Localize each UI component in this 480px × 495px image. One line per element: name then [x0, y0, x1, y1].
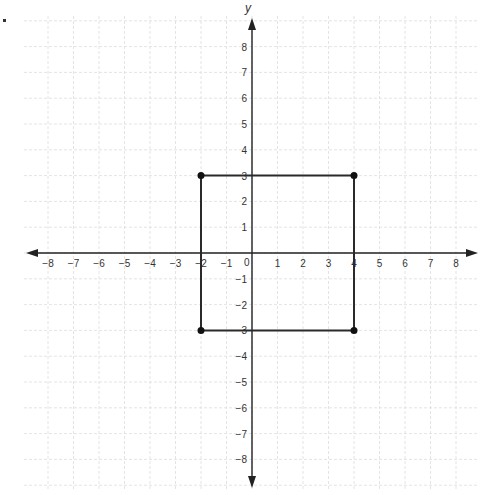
- x-tick-label: 1: [275, 258, 281, 269]
- y-tick-label: 6: [241, 93, 247, 104]
- vertex-point: [351, 327, 358, 334]
- y-tick-label: 5: [241, 119, 247, 130]
- y-tick-label: −6: [236, 403, 248, 414]
- y-tick-label: −1: [236, 274, 248, 285]
- y-tick-label: −2: [236, 300, 248, 311]
- y-tick-label: 1: [241, 222, 247, 233]
- y-tick-label: 8: [241, 42, 247, 53]
- x-tick-label: 7: [428, 258, 434, 269]
- x-axis-left-arrow-icon: [26, 249, 38, 257]
- x-tick-label: −3: [170, 258, 182, 269]
- y-axis-label: y: [244, 1, 252, 15]
- y-tick-label: 4: [241, 145, 247, 156]
- vertex-point: [198, 327, 205, 334]
- vertex-point: [198, 172, 205, 179]
- y-tick-label: 2: [241, 196, 247, 207]
- x-axis-right-arrow-icon: [466, 249, 478, 257]
- y-tick-label: 7: [241, 67, 247, 78]
- x-tick-label: −7: [68, 258, 80, 269]
- coordinate-plane: −8−7−6−5−4−3−2−112345678 87654321−1−2−3−…: [0, 0, 480, 495]
- bullet-marker: [3, 19, 6, 22]
- y-axis-down-arrow-icon: [248, 476, 256, 488]
- y-tick-label: −8: [236, 454, 248, 465]
- y-tick-label: −5: [236, 377, 248, 388]
- y-tick-label: −4: [236, 351, 248, 362]
- origin-label: 0: [244, 257, 250, 268]
- x-tick-label: 8: [453, 258, 459, 269]
- y-axis-up-arrow-icon: [248, 18, 256, 30]
- vertex-point: [351, 172, 358, 179]
- x-tick-label: −5: [119, 258, 131, 269]
- x-tick-labels: −8−7−6−5−4−3−2−112345678: [42, 258, 459, 269]
- x-tick-label: −8: [42, 258, 54, 269]
- x-tick-label: 3: [326, 258, 332, 269]
- y-tick-label: −7: [236, 429, 248, 440]
- x-tick-label: −4: [144, 258, 156, 269]
- axes: [26, 18, 478, 488]
- x-tick-label: 6: [402, 258, 408, 269]
- x-tick-label: 2: [300, 258, 306, 269]
- x-tick-label: 5: [377, 258, 383, 269]
- coordinate-grid-plot: −8−7−6−5−4−3−2−112345678 87654321−1−2−3−…: [0, 0, 480, 495]
- x-tick-label: −6: [93, 258, 105, 269]
- x-tick-label: −1: [221, 258, 233, 269]
